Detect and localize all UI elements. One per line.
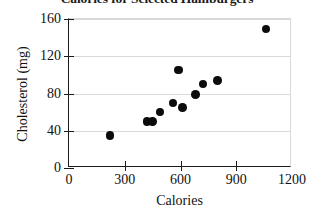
data-point <box>262 25 271 34</box>
gridline-y-80 <box>69 94 290 95</box>
data-point <box>199 80 208 89</box>
gridline-y-40 <box>69 131 290 132</box>
data-point <box>169 99 178 108</box>
x-tick-900 <box>236 161 237 171</box>
y-tick-label-120: 120 <box>40 48 61 64</box>
gridline-y-160 <box>69 19 290 20</box>
data-point <box>156 108 165 117</box>
chart-title: Calories for Selected Hamburgers <box>0 0 314 7</box>
data-point <box>106 131 115 140</box>
y-tick-160 <box>64 19 74 20</box>
x-tick-label-1200: 1200 <box>278 172 306 188</box>
data-point <box>174 66 183 75</box>
y-tick-label-0: 0 <box>54 160 61 176</box>
x-axis-title: Calories <box>68 193 291 209</box>
data-point <box>191 90 200 99</box>
y-axis-title: Cholesterol (mg) <box>15 19 31 169</box>
x-tick-label-900: 900 <box>226 172 247 188</box>
y-tick-80 <box>64 94 74 95</box>
x-tick-label-600: 600 <box>170 172 191 188</box>
gridline-y-120 <box>69 56 290 57</box>
data-point <box>148 117 157 126</box>
y-tick-120 <box>64 56 74 57</box>
x-tick-600 <box>181 161 182 171</box>
scatter-chart-figure: Calories for Selected Hamburgers Cholest… <box>0 0 314 219</box>
data-point <box>213 76 222 85</box>
x-tick-300 <box>125 161 126 171</box>
y-tick-label-40: 40 <box>47 123 61 139</box>
data-point <box>178 103 187 112</box>
y-tick-label-160: 160 <box>40 11 61 27</box>
y-tick-label-80: 80 <box>47 86 61 102</box>
x-tick-label-300: 300 <box>114 172 135 188</box>
y-tick-0 <box>64 168 74 169</box>
x-tick-label-0: 0 <box>66 172 73 188</box>
plot-area: 04080120160 03006009001200 <box>68 18 291 167</box>
y-tick-40 <box>64 131 74 132</box>
